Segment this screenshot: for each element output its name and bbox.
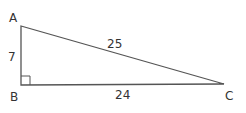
vertex-label-b: B (10, 90, 18, 104)
vertex-label-a: A (9, 11, 18, 25)
side-label-ac: 25 (107, 37, 122, 51)
vertex-label-c: C (225, 89, 233, 103)
right-angle-marker (21, 76, 30, 85)
triangle-abc (21, 26, 224, 85)
side-label-ab: 7 (8, 50, 16, 64)
side-label-bc: 24 (115, 88, 130, 102)
triangle-diagram: A B C 7 25 24 (0, 0, 246, 113)
